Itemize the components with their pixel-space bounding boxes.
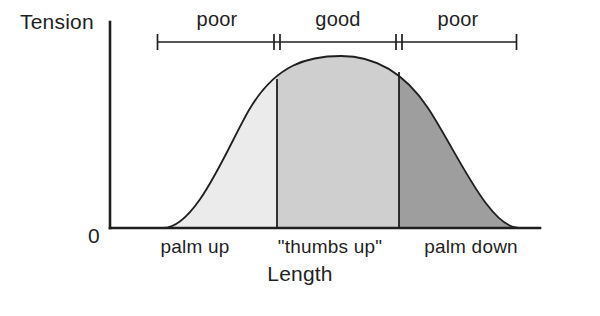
tension-length-figure: Tension 0 Length poor good poor palm up … — [0, 0, 600, 316]
x-axis-label: Length — [0, 262, 600, 286]
region-label-palm-up: palm up — [140, 236, 250, 258]
curve-fill-regions — [150, 40, 534, 235]
region-label-thumbs-up: "thumbs up" — [246, 236, 414, 258]
region-fill-thumbs-up — [277, 40, 399, 235]
quality-bracket — [157, 34, 517, 50]
region-label-palm-down: palm down — [410, 236, 532, 258]
bracket-label-good: good — [277, 8, 399, 31]
region-fill-palm-down — [399, 40, 534, 235]
region-fill-palm-up — [150, 40, 277, 235]
y-axis-label: Tension — [20, 10, 94, 34]
bracket-label-poor-right: poor — [399, 8, 517, 31]
bracket-label-poor-left: poor — [157, 8, 277, 31]
y-axis-origin-tick-label: 0 — [88, 224, 100, 248]
